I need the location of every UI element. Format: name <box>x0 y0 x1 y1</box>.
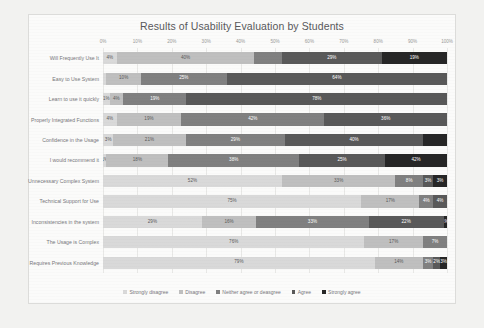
legend-label: Neither agree or deasgree <box>222 289 280 295</box>
bar-segment[interactable]: 4% <box>103 113 117 125</box>
legend-swatch <box>292 290 296 294</box>
bar-segment[interactable]: 4% <box>433 195 447 207</box>
bar-segment[interactable]: 19% <box>382 52 447 64</box>
bar-value-label: 25% <box>179 76 188 81</box>
bar-value-label: 36% <box>381 117 390 122</box>
legend-item[interactable]: Strongly disagree <box>123 289 168 295</box>
bar-row[interactable]: Properly Integrated Functions4%19%42%36% <box>103 113 447 125</box>
bar-segment[interactable]: 25% <box>299 154 385 166</box>
bar-row[interactable]: Requires Previous Knowledge79%14%3%2%3% <box>103 257 447 269</box>
bar-segment[interactable]: 18% <box>106 154 168 166</box>
bar-segment[interactable]: 36% <box>324 113 447 125</box>
bar-segment[interactable]: 40% <box>117 52 255 64</box>
bar-segment[interactable] <box>423 134 447 146</box>
bar-segment[interactable]: 78% <box>186 93 447 105</box>
legend-item[interactable]: Strongly agree <box>322 289 361 295</box>
bar-row[interactable]: Unnecessary Complex System52%33%8%3%3% <box>103 175 447 187</box>
x-tick-label: 0% <box>100 39 107 44</box>
gridline <box>447 48 448 273</box>
bar-segment[interactable]: 3% <box>423 257 433 269</box>
bar-segment[interactable]: 42% <box>385 154 447 166</box>
legend-item[interactable]: Agree <box>292 289 311 295</box>
x-axis-ticks: 0%10%20%30%40%50%60%70%80%90%100% <box>103 37 447 48</box>
bar-segment[interactable]: 29% <box>186 134 286 146</box>
bar-row[interactable]: Confidence in the Usage3%21%29%40% <box>103 134 447 146</box>
plot-area: 0%10%20%30%40%50%60%70%80%90%100% Will F… <box>29 37 455 273</box>
bar-segment[interactable]: 42% <box>181 113 324 125</box>
bar-row[interactable]: I would recommend it1%18%38%25%42% <box>103 154 447 166</box>
bar-segment[interactable]: 7% <box>423 236 447 248</box>
bar-value-label: 76% <box>229 240 238 245</box>
legend-swatch <box>216 290 220 294</box>
bar-segment[interactable]: 17% <box>361 195 419 207</box>
x-tick-label: 80% <box>374 39 383 44</box>
x-tick-label: 30% <box>202 39 211 44</box>
bar-segment[interactable]: 17% <box>364 236 422 248</box>
bar-segment[interactable]: 33% <box>282 175 396 187</box>
bar-value-label: 42% <box>248 117 257 122</box>
bar-segment[interactable]: 14% <box>375 257 423 269</box>
bar-segment[interactable]: 19% <box>123 93 186 105</box>
bar-value-label: 29% <box>148 220 157 225</box>
legend-swatch <box>322 290 326 294</box>
bars-container: Will Frequently Use It4%40%29%19%Easy to… <box>103 48 447 273</box>
bar-segment[interactable]: 10% <box>106 73 140 85</box>
x-tick-label: 90% <box>408 39 417 44</box>
bar-value-label: 64% <box>332 76 341 81</box>
bar-value-label: 16% <box>224 220 233 225</box>
bar-value-label: 19% <box>410 56 419 61</box>
bar-value-label: 3% <box>105 138 112 143</box>
legend-item[interactable]: Neither agree or deasgree <box>216 289 280 295</box>
category-label: Inconsistencies in the system <box>32 219 99 225</box>
bar-row[interactable]: Will Frequently Use It4%40%29%19% <box>103 52 447 64</box>
legend-swatch <box>123 290 127 294</box>
bar-row[interactable]: Technical Support for Use75%17%4%4% <box>103 195 447 207</box>
bar-row[interactable]: Learn to use it quickly1%4%19%78% <box>103 93 447 105</box>
legend-label: Disagree <box>185 289 205 295</box>
bar-segment[interactable]: 76% <box>103 236 364 248</box>
bar-value-label: 2% <box>433 260 440 265</box>
bar-segment[interactable]: 52% <box>103 175 282 187</box>
bar-value-label: 40% <box>181 56 190 61</box>
bar-segment[interactable]: 4% <box>103 52 117 64</box>
bar-value-label: 4% <box>107 56 114 61</box>
bar-segment[interactable]: 79% <box>103 257 375 269</box>
legend-label: Strongly disagree <box>129 289 168 295</box>
bar-segment[interactable]: 8% <box>395 175 423 187</box>
bar-segment[interactable]: 64% <box>227 73 447 85</box>
legend-label: Agree <box>298 289 311 295</box>
bar-segment[interactable]: 1% <box>444 216 447 228</box>
bar-segment[interactable]: 29% <box>282 52 382 64</box>
bar-segment[interactable]: 38% <box>168 154 299 166</box>
bar-segment[interactable]: 22% <box>369 216 444 228</box>
bar-segment[interactable]: 2% <box>433 257 440 269</box>
bar-value-label: 78% <box>312 97 321 102</box>
bar-segment[interactable]: 33% <box>256 216 368 228</box>
bar-segment[interactable]: 4% <box>419 195 433 207</box>
bar-segment[interactable]: 1% <box>103 93 110 105</box>
bar-segment[interactable] <box>254 52 282 64</box>
bar-segment[interactable]: 29% <box>103 216 202 228</box>
bar-row[interactable]: Easy to Use System10%25%64% <box>103 73 447 85</box>
bar-row[interactable]: The Usage is Complex76%17%7% <box>103 236 447 248</box>
bar-segment[interactable]: 75% <box>103 195 361 207</box>
bar-segment[interactable]: 3% <box>433 175 447 187</box>
bar-value-label: 79% <box>234 260 243 265</box>
bar-segment[interactable]: 3% <box>440 257 447 269</box>
bar-segment[interactable]: 4% <box>110 93 123 105</box>
bar-segment[interactable]: 21% <box>113 134 185 146</box>
category-label: Confidence in the Usage <box>42 137 99 143</box>
category-label: Technical Support for Use <box>40 198 99 204</box>
bar-segment[interactable]: 16% <box>202 216 256 228</box>
bar-value-label: 7% <box>432 240 439 245</box>
bar-value-label: 3% <box>437 179 444 184</box>
bar-row[interactable]: Inconsistencies in the system29%16%33%22… <box>103 216 447 228</box>
category-label: The Usage is Complex <box>47 239 99 245</box>
bar-segment[interactable]: 25% <box>141 73 227 85</box>
bar-segment[interactable]: 40% <box>285 134 423 146</box>
bar-segment[interactable]: 3% <box>103 134 113 146</box>
bar-segment[interactable]: 19% <box>117 113 182 125</box>
bar-segment[interactable]: 3% <box>423 175 433 187</box>
bar-value-label: 42% <box>411 158 420 163</box>
legend-item[interactable]: Disagree <box>179 289 205 295</box>
